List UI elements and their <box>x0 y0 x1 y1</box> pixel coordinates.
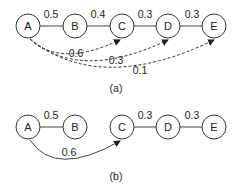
arc-label-a-e: 0.1 <box>133 64 148 76</box>
arc-label-a-c: 0.6 <box>69 47 84 59</box>
svg-text:D: D <box>164 20 172 32</box>
edge-label-c-d: 0.3 <box>138 8 153 20</box>
caption-b: (b) <box>110 170 123 182</box>
svg-text:D: D <box>164 121 172 133</box>
edge-label-b-c: 0.4 <box>91 8 106 20</box>
svg-text:E: E <box>210 121 217 133</box>
node-b: B <box>63 14 87 38</box>
edge-label-a-b: 0.5 <box>44 8 59 20</box>
arc-label-a-c: 0.6 <box>62 146 77 158</box>
node-a: A <box>16 115 40 139</box>
arc-label-a-d: 0.3 <box>109 54 124 66</box>
svg-text:C: C <box>118 121 126 133</box>
graph-diagram: 0.5 0.4 0.3 0.3 0.6 0.3 0.1 A B C D E (a… <box>0 0 239 195</box>
diagram-b: 0.5 0.3 0.3 0.6 A B C D E (b) <box>16 109 226 182</box>
svg-text:E: E <box>210 20 217 32</box>
svg-text:C: C <box>118 20 126 32</box>
dashed-arc-a-d <box>30 39 168 61</box>
svg-text:B: B <box>71 121 78 133</box>
edge-label-d-e: 0.3 <box>185 109 200 121</box>
node-e: E <box>202 115 226 139</box>
node-b: B <box>63 115 87 139</box>
caption-a: (a) <box>110 82 123 94</box>
node-e: E <box>202 14 226 38</box>
diagram-a: 0.5 0.4 0.3 0.3 0.6 0.3 0.1 A B C D E (a… <box>16 8 226 94</box>
node-c: C <box>110 14 134 38</box>
edge-label-a-b: 0.5 <box>44 109 59 121</box>
edge-label-c-d: 0.3 <box>138 109 153 121</box>
edge-label-d-e: 0.3 <box>185 8 200 20</box>
svg-text:A: A <box>24 121 32 133</box>
svg-text:B: B <box>71 20 78 32</box>
node-a: A <box>16 14 40 38</box>
svg-text:A: A <box>24 20 32 32</box>
node-c: C <box>110 115 134 139</box>
node-d: D <box>156 115 180 139</box>
node-d: D <box>156 14 180 38</box>
